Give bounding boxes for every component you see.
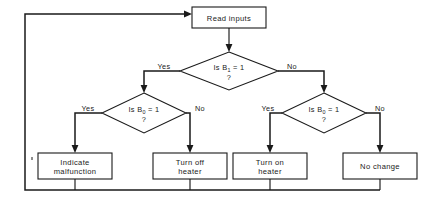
edge-b1-yes-arrowhead [141,85,148,93]
edge-b0-right-yes [270,113,282,147]
b0l-suffix: = 1 [146,105,160,114]
flowchart-svg: Read inputs Is B1 = 1 ? Yes No Is B0 = 1… [0,0,440,204]
node-turn-off-heater-line2: heater [178,167,202,176]
branch-label-b0-right-no: No [375,104,385,113]
edge-b1-yes [144,71,180,87]
edge-b0-right-no-arrowhead [377,145,384,153]
node-indicate-malfunction-line1: Indicate [60,158,89,167]
branch-label-b1-yes: Yes [158,62,171,71]
edge-b1-no-arrowhead [321,85,328,93]
edge-b0-right-no [366,113,380,147]
branch-label-b0-left-yes: Yes [82,104,95,113]
node-turn-on-heater-line2: heater [258,167,282,176]
branch-label-b1-no: No [287,62,297,71]
node-turn-on-heater-line1: Turn on [256,158,284,167]
branch-label-b0-left-no: No [195,104,205,113]
b1-prefix: Is B [214,63,228,72]
node-decision-b1-question: ? [227,73,231,82]
node-decision-b0-left-question: ? [142,115,146,124]
edge-b0-left-yes [75,113,102,147]
flowchart-canvas: Read inputs Is B1 = 1 ? Yes No Is B0 = 1… [0,0,440,204]
edge-b0-right-yes-arrowhead [267,145,274,153]
feedback-arrowhead [184,11,192,18]
b0r-suffix: = 1 [326,105,340,114]
node-indicate-malfunction-line2: malfunction [54,167,97,176]
node-turn-off-heater-line1: Turn off [176,158,205,167]
edge-readinputs-to-b1-arrowhead [226,44,233,52]
edge-b0-left-no [186,113,190,147]
node-read-inputs-label: Read inputs [207,14,251,23]
edge-b1-no [278,71,324,87]
edge-b0-left-yes-arrowhead [72,145,79,153]
b0l-prefix: Is B [129,105,143,114]
branch-label-b0-right-yes: Yes [262,104,275,113]
b0r-prefix: Is B [309,105,323,114]
b1-suffix: = 1 [231,63,245,72]
edge-b0-left-no-arrowhead [187,145,194,153]
node-no-change-line1: No change [360,162,400,171]
node-decision-b0-right-question: ? [322,115,326,124]
